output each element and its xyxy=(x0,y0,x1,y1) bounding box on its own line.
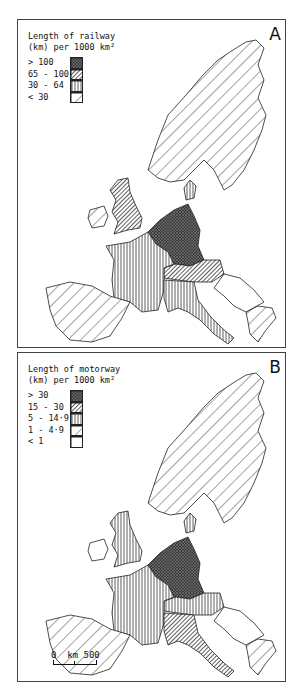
swatch-vertical xyxy=(70,413,83,425)
panel-label-b: B xyxy=(269,357,281,377)
scale-end: 500 xyxy=(84,650,100,660)
legend-row: > 100 xyxy=(28,57,115,69)
legend-label: 5 - 14·9 xyxy=(28,413,70,424)
scale-unit: km xyxy=(67,650,78,660)
legend-label: 65 - 100 xyxy=(28,69,70,80)
legend: Length of railway (km) per 1000 km² > 10… xyxy=(28,31,115,103)
legend-row: 15 - 30 xyxy=(28,402,120,414)
legend-label: < 30 xyxy=(28,92,70,103)
region-greece xyxy=(246,639,276,675)
region-ireland xyxy=(88,539,108,561)
region-scandinavia xyxy=(148,40,266,190)
legend-label: < 1 xyxy=(28,436,70,447)
region-denmark xyxy=(184,180,196,200)
motorway-map-panel: Length of motorway (km) per 1000 km² > 3… xyxy=(17,352,286,682)
railway-map-panel: Length of railway (km) per 1000 km² > 10… xyxy=(17,19,286,348)
region-scandinavia xyxy=(148,373,266,523)
legend-label: 15 - 30 xyxy=(28,402,70,413)
legend-title-line2: (km) per 1000 km² xyxy=(28,42,115,53)
scale-line xyxy=(53,660,97,665)
legend-label: > 100 xyxy=(28,57,70,68)
swatch-sparse-diagonal xyxy=(70,425,83,437)
scale-start: 0 xyxy=(51,650,56,660)
legend-row: < 1 xyxy=(28,436,120,448)
legend-row: 5 - 14·9 xyxy=(28,413,120,425)
panel-label-a: A xyxy=(269,24,281,44)
legend-label: 30 - 64 xyxy=(28,80,70,91)
legend-row: < 30 xyxy=(28,92,115,104)
legend-row: > 30 xyxy=(28,390,120,402)
region-balkans xyxy=(214,607,264,645)
legend-label: 1 - 4·9 xyxy=(28,425,70,436)
swatch-crosshatch-dark xyxy=(70,57,83,69)
swatch-sparse-diagonal xyxy=(70,92,83,104)
swatch-blank xyxy=(70,436,83,448)
swatch-vertical xyxy=(70,80,83,92)
legend-label: > 30 xyxy=(28,390,70,401)
legend-title-line2: (km) per 1000 km² xyxy=(28,375,120,386)
region-uk xyxy=(110,178,142,234)
legend-title-line1: Length of railway xyxy=(28,31,115,42)
region-greece xyxy=(246,306,276,342)
legend-row: 30 - 64 xyxy=(28,80,115,92)
swatch-crosshatch-dark xyxy=(70,390,83,402)
legend: Length of motorway (km) per 1000 km² > 3… xyxy=(28,364,120,448)
region-balkans xyxy=(214,274,264,312)
region-ireland xyxy=(88,206,108,228)
region-uk xyxy=(110,511,142,567)
swatch-dense-diagonal xyxy=(70,402,83,414)
legend-title-line1: Length of motorway xyxy=(28,364,120,375)
swatch-dense-diagonal xyxy=(70,69,83,81)
scale-bar: 0 km 500 xyxy=(51,650,100,665)
legend-row: 1 - 4·9 xyxy=(28,425,120,437)
legend-row: 65 - 100 xyxy=(28,69,115,81)
region-denmark xyxy=(184,513,196,533)
